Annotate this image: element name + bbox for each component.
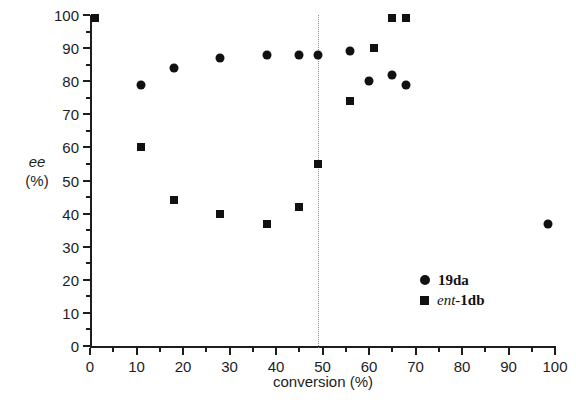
x-tick-major <box>554 348 556 355</box>
data-point-square <box>314 160 322 168</box>
data-point-square <box>346 97 354 105</box>
y-tick-major <box>83 146 90 148</box>
y-axis-title-unit: (%) <box>8 171 66 190</box>
y-tick-label: 20 <box>62 272 79 287</box>
y-tick-label: 90 <box>62 41 79 56</box>
legend-marker-square-icon <box>420 296 429 305</box>
x-tick-major <box>136 348 138 355</box>
x-tick-major <box>368 348 370 355</box>
y-axis-title-main: ee <box>29 153 46 170</box>
x-tick-label: 50 <box>314 359 331 374</box>
y-tick-label: 80 <box>62 74 79 89</box>
y-tick-minor <box>86 130 90 132</box>
legend: 19daent-1db <box>420 270 485 310</box>
y-tick-major <box>83 213 90 215</box>
x-tick-minor <box>159 348 161 352</box>
y-axis-title: ee (%) <box>8 152 66 190</box>
data-point-square <box>295 203 303 211</box>
x-tick-label: 40 <box>268 359 285 374</box>
x-tick-major <box>461 348 463 355</box>
y-tick-label: 30 <box>62 239 79 254</box>
y-tick-minor <box>86 229 90 231</box>
y-tick-minor <box>86 328 90 330</box>
y-axis-line <box>90 15 92 348</box>
x-tick-label: 70 <box>407 359 424 374</box>
data-point-square <box>91 14 99 22</box>
y-tick-major <box>83 80 90 82</box>
y-tick-label: 70 <box>62 107 79 122</box>
x-tick-minor <box>531 348 533 352</box>
data-point-circle <box>544 219 553 228</box>
y-tick-major <box>83 113 90 115</box>
data-point-square <box>137 143 145 151</box>
data-point-circle <box>346 47 355 56</box>
data-point-circle <box>295 50 304 59</box>
legend-item: ent-1db <box>420 290 485 310</box>
data-point-circle <box>402 80 411 89</box>
data-point-circle <box>313 50 322 59</box>
x-tick-label: 100 <box>542 359 567 374</box>
legend-item: 19da <box>420 270 485 290</box>
x-tick-minor <box>345 348 347 352</box>
y-tick-label: 50 <box>62 173 79 188</box>
y-tick-label: 60 <box>62 140 79 155</box>
legend-label: ent-1db <box>437 292 485 309</box>
data-point-circle <box>137 80 146 89</box>
x-tick-major <box>415 348 417 355</box>
data-point-square <box>263 220 271 228</box>
x-tick-minor <box>438 348 440 352</box>
x-tick-minor <box>391 348 393 352</box>
data-point-circle <box>365 77 374 86</box>
y-tick-major <box>83 279 90 281</box>
legend-marker-circle-icon <box>420 275 430 285</box>
x-tick-major <box>182 348 184 355</box>
data-point-circle <box>262 50 271 59</box>
y-tick-major <box>83 246 90 248</box>
y-tick-major <box>83 345 90 347</box>
scatter-plot-figure: ee (%) conversion (%) 010203040506070809… <box>0 0 576 408</box>
y-tick-major <box>83 47 90 49</box>
y-tick-minor <box>86 163 90 165</box>
x-tick-minor <box>205 348 207 352</box>
data-point-square <box>388 14 396 22</box>
x-tick-label: 80 <box>454 359 471 374</box>
x-tick-minor <box>484 348 486 352</box>
x-tick-label: 10 <box>128 359 145 374</box>
x-tick-label: 30 <box>221 359 238 374</box>
data-point-square <box>370 44 378 52</box>
plot-area: 0102030405060708090100 01020304050607080… <box>90 15 555 347</box>
x-tick-major <box>229 348 231 355</box>
y-tick-label: 0 <box>71 339 79 354</box>
x-tick-major <box>275 348 277 355</box>
x-tick-major <box>322 348 324 355</box>
x-tick-label: 20 <box>175 359 192 374</box>
x-tick-minor <box>112 348 114 352</box>
data-point-circle <box>388 70 397 79</box>
x-tick-minor <box>298 348 300 352</box>
data-point-square <box>170 196 178 204</box>
x-tick-major <box>508 348 510 355</box>
y-tick-minor <box>86 31 90 33</box>
y-tick-label: 40 <box>62 206 79 221</box>
y-tick-label: 10 <box>62 305 79 320</box>
x-tick-minor <box>252 348 254 352</box>
y-tick-minor <box>86 64 90 66</box>
x-axis-title: conversion (%) <box>90 373 556 390</box>
data-point-circle <box>216 54 225 63</box>
y-tick-minor <box>86 295 90 297</box>
y-tick-label: 100 <box>54 8 79 23</box>
y-tick-minor <box>86 97 90 99</box>
x-tick-label: 60 <box>361 359 378 374</box>
data-point-square <box>216 210 224 218</box>
data-point-circle <box>169 63 178 72</box>
threshold-reference-line <box>318 15 319 348</box>
legend-label: 19da <box>438 272 469 289</box>
x-tick-label: 90 <box>500 359 517 374</box>
y-tick-major <box>83 180 90 182</box>
x-tick-major <box>89 348 91 355</box>
legend-label-prefix: ent- <box>437 292 460 308</box>
data-point-square <box>402 14 410 22</box>
y-tick-major <box>83 312 90 314</box>
y-tick-major <box>83 14 90 16</box>
y-tick-minor <box>86 196 90 198</box>
